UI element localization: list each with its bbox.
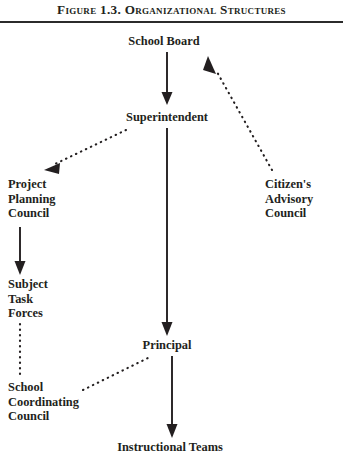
edge-school-coordinating-to-principal: [83, 357, 150, 390]
node-subject-task-forces: Subject Task Forces: [8, 277, 48, 321]
node-school-coordinating-council: School Coordinating Council: [8, 380, 79, 424]
edge-superintendent-to-project-planning: [44, 130, 126, 174]
edge-citizens-advisory-to-school-board: [203, 56, 272, 170]
node-instructional-teams: Instructional Teams: [117, 440, 223, 455]
node-superintendent: Superintendent: [126, 110, 208, 125]
node-principal: Principal: [143, 338, 192, 353]
node-project-planning-council: Project Planning Council: [8, 177, 56, 221]
node-school-board: School Board: [128, 34, 199, 49]
figure-container: Figure 1.3. Organizational Structures: [0, 0, 343, 460]
edge-superintendent-to-principal: [162, 128, 173, 336]
edge-principal-to-instructional-teams: [167, 356, 178, 438]
node-citizens-advisory-council: Citizen's Advisory Council: [265, 177, 313, 221]
edge-project-planning-to-subject-task: [15, 227, 26, 275]
edge-school-board-to-superintendent: [162, 52, 173, 105]
